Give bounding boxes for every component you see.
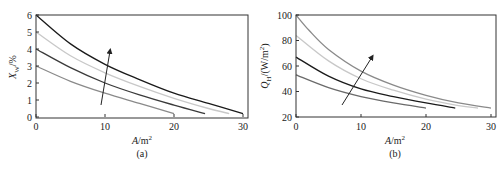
figure: 0102030 0123456 A/m2 (a) XW/% 0102030 20… <box>0 0 504 170</box>
chart-b-curves <box>296 15 491 108</box>
chart-a-y-ticks: 0123456 <box>27 10 39 123</box>
x-tick-label: 20 <box>421 121 431 132</box>
chart-b-series-4 <box>296 75 426 108</box>
x-tick-label: 10 <box>356 121 366 132</box>
chart-a-trend-arrow-icon <box>101 51 110 105</box>
y-tick-label: 1 <box>27 95 32 106</box>
chart-a-series-1 <box>36 15 243 114</box>
x-tick-label: 30 <box>486 121 496 132</box>
chart-a-series-3 <box>36 49 205 114</box>
y-tick-label: 5 <box>27 27 32 38</box>
y-tick-label: 40 <box>282 86 292 97</box>
y-tick-label: 3 <box>27 61 32 72</box>
y-tick-label: 100 <box>277 10 292 21</box>
chart-a-x-ticks: 0102030 <box>34 114 249 132</box>
x-tick-label: 20 <box>169 121 179 132</box>
chart-a-x-axis-label: A/m2 <box>131 134 153 146</box>
y-tick-label: 4 <box>27 44 32 55</box>
chart-b-series-1 <box>296 15 491 108</box>
chart-a: 0102030 0123456 A/m2 (a) XW/% <box>7 10 248 161</box>
y-tick-label: 80 <box>282 35 292 46</box>
y-tick-label: 0 <box>27 112 32 123</box>
chart-b-caption: (b) <box>389 148 401 160</box>
chart-a-curves <box>36 15 243 114</box>
y-tick-label: 6 <box>27 10 32 21</box>
x-tick-label: 0 <box>294 121 299 132</box>
chart-b-x-axis-label: A/m2 <box>384 134 406 146</box>
chart-b-series-2 <box>296 35 478 108</box>
chart-a-caption: (a) <box>136 148 147 160</box>
y-tick-label: 2 <box>27 78 32 89</box>
chart-b-plot-frame <box>296 15 496 117</box>
x-tick-label: 10 <box>100 121 110 132</box>
x-tick-label: 30 <box>238 121 248 132</box>
y-tick-label: 60 <box>282 61 292 72</box>
chart-a-y-axis-label: XW/% <box>7 55 21 80</box>
chart-b-y-axis-label: QH/(W/m2) <box>258 43 273 88</box>
x-tick-label: 0 <box>34 121 39 132</box>
y-tick-label: 20 <box>282 112 292 123</box>
chart-b: 0102030 20406080100 A/m2 (b) QH/(W/m2) <box>258 10 496 161</box>
